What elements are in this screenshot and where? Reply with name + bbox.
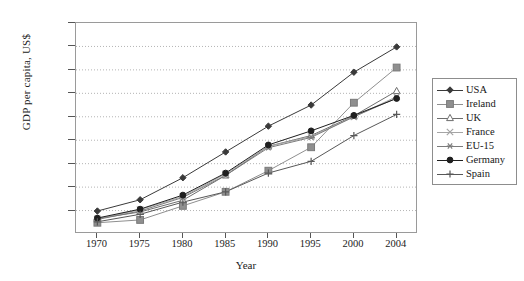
data-point-square <box>447 101 454 108</box>
legend-item-uk[interactable]: UK <box>437 111 513 125</box>
y-tick-mark <box>68 92 75 93</box>
legend-item-germany[interactable]: Germany <box>437 153 513 167</box>
legend-marker-circle-icon <box>437 154 463 166</box>
data-point-diamond <box>447 87 453 93</box>
legend-item-spain[interactable]: Spain <box>437 167 513 181</box>
y-tick-mark <box>68 163 75 164</box>
legend-label: EU-15 <box>463 139 494 153</box>
legend-marker-glyph <box>444 168 456 180</box>
legend-marker-square-icon <box>437 98 463 110</box>
data-point-square <box>393 64 400 71</box>
data-point-circle <box>308 128 314 134</box>
legend-marker-glyph <box>444 154 456 166</box>
data-point-diamond <box>94 208 100 214</box>
legend-label: Spain <box>463 167 490 181</box>
legend-label: France <box>463 125 495 139</box>
legend-marker-triangle-icon <box>437 112 463 124</box>
data-point-circle <box>394 96 400 102</box>
legend-marker-plus-icon <box>437 168 463 180</box>
legend-item-france[interactable]: France <box>437 125 513 139</box>
legend-marker-star-icon <box>437 140 463 152</box>
data-point-diamond <box>265 123 271 129</box>
data-point-star <box>447 143 453 148</box>
plot-svg <box>76 23 418 234</box>
y-tick-mark <box>68 139 75 140</box>
chart-legend: USAIrelandUKFranceEU-15GermanySpain <box>432 78 517 185</box>
legend-item-eu-15[interactable]: EU-15 <box>437 139 513 153</box>
y-tick-mark <box>68 69 75 70</box>
series-line-spain <box>97 114 396 221</box>
legend-marker-glyph <box>444 112 456 124</box>
data-point-square <box>308 144 315 151</box>
data-point-circle <box>180 192 186 198</box>
legend-marker-glyph <box>444 126 456 138</box>
legend-item-ireland[interactable]: Ireland <box>437 97 513 111</box>
legend-marker-cross-x-icon <box>437 126 463 138</box>
data-point-plus <box>446 170 453 177</box>
plot-area <box>75 22 417 233</box>
legend-marker-glyph <box>444 140 456 152</box>
data-point-circle <box>265 142 271 148</box>
data-point-diamond <box>222 149 228 155</box>
legend-marker-diamond-icon <box>437 84 463 96</box>
legend-label: UK <box>463 111 481 125</box>
data-point-triangle <box>393 87 400 93</box>
y-tick-mark <box>68 210 75 211</box>
data-point-circle <box>223 170 229 176</box>
y-tick-mark <box>68 186 75 187</box>
y-tick-mark <box>68 45 75 46</box>
legend-item-usa[interactable]: USA <box>437 83 513 97</box>
y-tick-mark <box>68 116 75 117</box>
y-tick-mark <box>68 22 75 23</box>
legend-label: Ireland <box>463 97 496 111</box>
legend-marker-glyph <box>444 98 456 110</box>
data-point-circle <box>351 112 357 118</box>
data-point-diamond <box>180 175 186 181</box>
data-point-triangle <box>447 114 454 120</box>
data-point-diamond <box>393 44 399 50</box>
x-tick-label: 2004 <box>366 238 426 249</box>
data-point-square <box>350 99 357 106</box>
data-point-circle <box>447 157 453 163</box>
data-point-diamond <box>137 197 143 203</box>
data-point-cross-x <box>447 129 453 135</box>
data-point-plus <box>350 132 357 139</box>
legend-label: USA <box>463 83 487 97</box>
gdp-per-capita-line-chart: GDP per capita, US$ Year 500010000150002… <box>0 0 524 281</box>
legend-marker-glyph <box>444 84 456 96</box>
legend-label: Germany <box>463 153 505 167</box>
